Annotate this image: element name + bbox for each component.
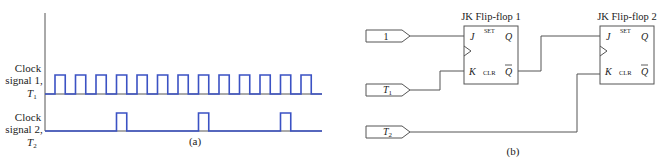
- wire-qbar1-to-j2: [518, 36, 600, 71]
- t2-label-line1: Clock: [15, 111, 42, 123]
- input-flag-1: 1: [366, 30, 410, 42]
- jk-flip-flop-2: JK Flip-flop 2 J K SET CLR Q Q: [597, 11, 657, 84]
- jk-flip-flop-1: JK Flip-flop 1 J K SET CLR Q Q: [461, 11, 521, 84]
- svg-text:SET: SET: [484, 28, 495, 34]
- svg-text:J: J: [470, 31, 475, 42]
- svg-text:CLR: CLR: [483, 69, 496, 76]
- circuit-diagram: 1 T1 T2 JK Flip-flop 1 J K SET CLR Q Q: [366, 11, 657, 158]
- svg-text:K: K: [604, 66, 613, 77]
- wire-t1-to-k1: [410, 71, 464, 90]
- diagram-canvas: Clock signal 1, T1 Clock signal 2, T2 (a…: [0, 0, 660, 159]
- caption-b: (b): [507, 145, 520, 158]
- clock-signal-1-waveform: [45, 75, 322, 94]
- t1-label-symbol: T1: [27, 87, 37, 101]
- svg-text:Q: Q: [505, 31, 513, 42]
- ff1-title: JK Flip-flop 1: [461, 11, 521, 22]
- svg-text:1: 1: [384, 31, 389, 42]
- svg-text:Q: Q: [641, 66, 649, 77]
- t2-label-line2: signal 2,: [5, 123, 43, 135]
- timing-diagram: Clock signal 1, T1 Clock signal 2, T2 (a…: [5, 13, 322, 150]
- svg-text:Q: Q: [641, 31, 649, 42]
- svg-text:CLR: CLR: [619, 69, 632, 76]
- t1-label-line2: signal 1,: [5, 74, 43, 86]
- svg-text:K: K: [468, 66, 477, 77]
- input-flag-t2: T2: [366, 126, 410, 139]
- ff2-title: JK Flip-flop 2: [597, 11, 657, 22]
- input-flag-t1: T1: [366, 84, 410, 97]
- svg-text:Q: Q: [505, 66, 513, 77]
- clock-signal-2-waveform: [45, 113, 322, 131]
- t2-label-symbol: T2: [27, 136, 37, 150]
- svg-text:SET: SET: [620, 28, 631, 34]
- caption-a: (a): [189, 135, 202, 148]
- svg-text:J: J: [606, 31, 611, 42]
- t1-label-line1: Clock: [15, 62, 42, 74]
